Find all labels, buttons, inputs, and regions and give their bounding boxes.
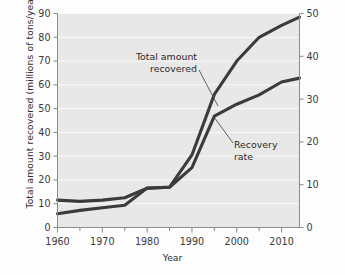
- x-axis-label: Year: [0, 252, 345, 263]
- y-tick-label-right: 10: [307, 179, 319, 190]
- annotation-recovery-rate-line2: rate: [234, 151, 253, 162]
- annotation-total-amount-recovered-line2: recovered: [150, 63, 197, 74]
- y-tick-label-left: 90: [38, 8, 50, 19]
- y-tick-label-left: 80: [38, 32, 50, 43]
- x-tick-label: 2000: [225, 236, 249, 247]
- x-tick-label: 2010: [269, 236, 293, 247]
- y-axis-label-left: Total amount recovered (millions of tons…: [24, 39, 35, 209]
- chart-figure: Total amount recovered (millions of tons…: [0, 0, 345, 275]
- y-tick-label-right: 0: [307, 222, 313, 233]
- x-tick-label: 1980: [135, 236, 159, 247]
- x-tick-label: 1960: [45, 236, 69, 247]
- y-tick-label-right: 40: [307, 51, 319, 62]
- y-tick-label-right: 30: [307, 94, 319, 105]
- annotation-total-amount-recovered-line1: Total amount: [135, 51, 197, 62]
- y-tick-label-left: 10: [38, 198, 50, 209]
- x-tick-label: 1970: [90, 236, 114, 247]
- y-tick-label-right: 50: [307, 8, 319, 19]
- y-tick-label-left: 50: [38, 103, 50, 114]
- plot-background: [58, 14, 300, 228]
- y-tick-label-left: 0: [44, 222, 50, 233]
- y-tick-label-left: 20: [38, 174, 50, 185]
- y-tick-label-left: 60: [38, 79, 50, 90]
- y-tick-label-left: 70: [38, 55, 50, 66]
- y-tick-label-left: 30: [38, 151, 50, 162]
- y-tick-label-right: 20: [307, 136, 319, 147]
- chart-plot-area: 0102030405060708090010203040501960197019…: [0, 0, 345, 275]
- x-tick-label: 1990: [180, 236, 204, 247]
- y-tick-label-left: 40: [38, 127, 50, 138]
- annotation-recovery-rate-line1: Recovery: [234, 139, 278, 150]
